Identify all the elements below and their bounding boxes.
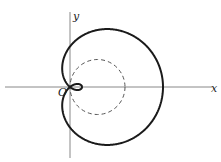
limacon-diagram: x y O xyxy=(0,0,221,162)
x-axis-label: x xyxy=(211,82,218,95)
y-axis-label: y xyxy=(72,10,80,23)
origin-label: O xyxy=(58,86,67,99)
